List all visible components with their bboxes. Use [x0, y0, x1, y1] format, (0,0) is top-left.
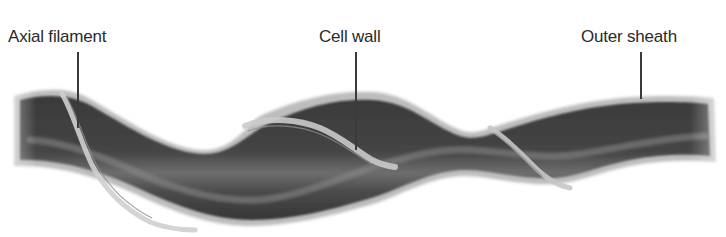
leader-line-cell-wall [355, 52, 357, 150]
label-cell-wall: Cell wall [319, 27, 381, 47]
label-outer-sheath: Outer sheath [581, 27, 677, 47]
leader-line-axial-filament [77, 52, 79, 128]
label-axial-filament: Axial filament [8, 27, 106, 47]
leader-line-outer-sheath [640, 52, 642, 99]
spirochete-diagram: Axial filament Cell wall Outer sheath [0, 0, 726, 237]
